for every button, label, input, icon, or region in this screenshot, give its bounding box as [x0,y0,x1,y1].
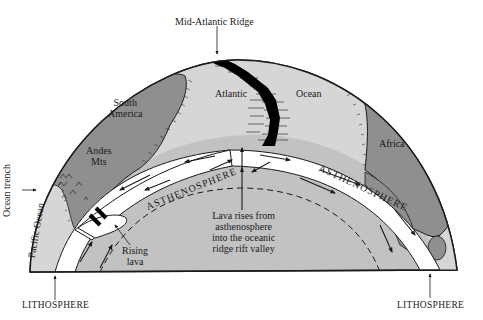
south-america-label: South America [108,97,142,119]
andes-line2: Mts [86,156,112,167]
rising-lava-line1: Rising [122,245,148,256]
lava-rises-line4: ridge rift valley [212,243,275,254]
mid-atlantic-ridge-label: Mid-Atlantic Ridge [175,16,254,27]
ocean-trench-label: Ocean trench [1,164,12,217]
lava-rises-line1: Lava rises from [212,210,275,221]
ocean-label: Ocean [296,88,322,99]
atlantic-label: Atlantic [215,88,247,99]
lithosphere-right-label: LITHOSPHERE [397,300,464,311]
south-america-line1: South [108,97,142,108]
seafloor-spreading-diagram [0,0,483,320]
andes-label: Andes Mts [86,145,112,167]
lava-rises-line2: asthenosphere [212,221,275,232]
lava-rises-label: Lava rises from asthenosphere into the o… [212,210,275,254]
lava-rises-line3: into the oceanic [212,232,275,243]
lithosphere-left-label: LITHOSPHERE [22,300,89,311]
rising-lava-line2: lava [122,256,148,267]
andes-line1: Andes [86,145,112,156]
rising-lava-label: Rising lava [122,245,148,267]
africa-label: Africa [379,138,405,149]
south-america-line2: America [108,108,142,119]
